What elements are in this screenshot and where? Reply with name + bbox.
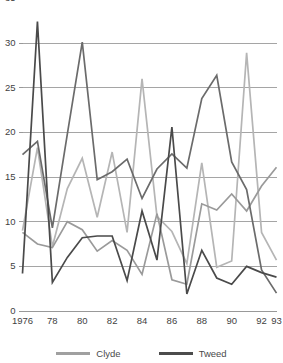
legend-label-clyde: Clyde bbox=[96, 348, 120, 359]
legend-swatch-clyde bbox=[56, 352, 90, 355]
chart-canvas: 05101520253035 bbox=[0, 0, 283, 320]
y-axis-tick-label: 25 bbox=[5, 82, 16, 93]
x-axis-tick-label: 90 bbox=[226, 315, 237, 327]
x-axis-tick-label: 1976 bbox=[12, 315, 33, 327]
x-axis-tick-label: 93 bbox=[271, 315, 282, 327]
y-axis-tick-label: 10 bbox=[5, 216, 16, 227]
y-axis-tick-label: 30 bbox=[5, 37, 16, 48]
line-chart: 05101520253035 1976788082848688909293 Cl… bbox=[0, 0, 283, 363]
x-axis-tick-label: 86 bbox=[167, 315, 178, 327]
legend-item-tweed[interactable]: Tweed bbox=[159, 348, 227, 359]
legend-item-clyde[interactable]: Clyde bbox=[56, 348, 120, 359]
x-axis-tick-label: 78 bbox=[47, 315, 58, 327]
x-axis-tick-label: 80 bbox=[77, 315, 88, 327]
chart-legend: Clyde Tweed bbox=[0, 344, 283, 362]
y-axis-tick-label: 35 bbox=[5, 0, 16, 3]
x-axis-tick-label: 82 bbox=[107, 315, 118, 327]
plot-area: 05101520253035 bbox=[0, 0, 283, 320]
legend-label-tweed: Tweed bbox=[199, 348, 227, 359]
legend-swatch-tweed bbox=[159, 352, 193, 355]
y-axis-tick-label: 5 bbox=[10, 260, 15, 271]
x-axis-tick-label: 88 bbox=[196, 315, 207, 327]
y-axis-tick-label: 20 bbox=[5, 126, 16, 137]
x-axis-tick-label: 84 bbox=[137, 315, 148, 327]
x-axis-tick-labels: 1976788082848688909293 bbox=[0, 315, 283, 333]
y-axis-tick-label: 15 bbox=[5, 171, 16, 182]
x-axis-tick-label: 92 bbox=[256, 315, 267, 327]
